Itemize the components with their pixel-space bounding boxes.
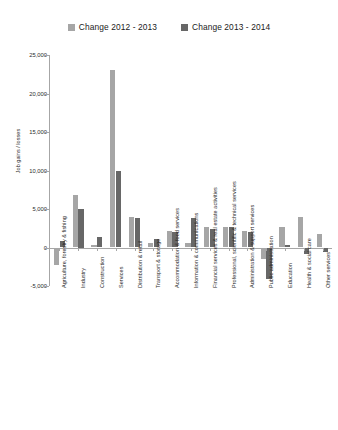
x-axis-category-label: Other services bbox=[325, 252, 331, 288]
bars-container bbox=[50, 55, 332, 286]
x-axis-tick-mark bbox=[116, 248, 117, 251]
bar[interactable] bbox=[97, 237, 102, 248]
bar-group bbox=[276, 55, 295, 286]
x-axis-category-label: Information & communications bbox=[193, 213, 199, 288]
bar[interactable] bbox=[185, 243, 190, 248]
y-axis-tick-mark bbox=[45, 132, 49, 133]
x-axis-tick-mark bbox=[78, 248, 79, 251]
bar-chart: Change 2012 - 2013 Change 2013 - 2014 Jo… bbox=[0, 0, 338, 430]
bar[interactable] bbox=[54, 248, 59, 266]
x-axis-category-label: Accommodation & food services bbox=[174, 208, 180, 288]
bar-group bbox=[69, 55, 88, 286]
bar[interactable] bbox=[73, 195, 78, 247]
bar[interactable] bbox=[116, 171, 121, 247]
bar[interactable] bbox=[298, 217, 303, 248]
x-axis-category-label: Professional, scientific & technical ser… bbox=[231, 181, 237, 288]
bar[interactable] bbox=[148, 243, 153, 248]
y-axis-tick-mark bbox=[45, 171, 49, 172]
bar[interactable] bbox=[204, 227, 209, 248]
bar[interactable] bbox=[91, 245, 96, 247]
bar-group bbox=[106, 55, 125, 286]
bar[interactable] bbox=[167, 231, 172, 248]
bar[interactable] bbox=[242, 231, 247, 248]
bar[interactable] bbox=[110, 70, 115, 247]
x-axis-category-labels: Agriculture, forestry & fishingIndustryC… bbox=[50, 286, 332, 426]
y-axis-tick-mark bbox=[45, 209, 49, 210]
x-axis-category-label: Agriculture, forestry & fishing bbox=[61, 216, 67, 288]
x-axis-category-label: Health & social care bbox=[306, 238, 312, 288]
x-axis-category-label: Financial services & real estate activit… bbox=[212, 187, 218, 288]
x-axis-category-label: Construction bbox=[99, 257, 105, 288]
x-axis-tick-mark bbox=[210, 248, 211, 251]
x-axis-category-label: Public administration bbox=[268, 236, 274, 288]
y-axis-tick-mark bbox=[45, 286, 49, 287]
bar[interactable] bbox=[223, 227, 228, 247]
x-axis-category-label: Services bbox=[118, 267, 124, 289]
x-axis-category-label: Education bbox=[287, 263, 293, 288]
x-axis-category-label: Administration & support services bbox=[249, 205, 255, 288]
x-axis-tick-mark bbox=[229, 248, 230, 251]
bar[interactable] bbox=[285, 245, 290, 247]
y-axis-tick-labels: 25,00020,00015,00010,0005,0000-5,000 bbox=[18, 50, 47, 290]
x-axis-tick-mark bbox=[191, 248, 192, 251]
x-axis-category-label: Industry bbox=[80, 268, 86, 288]
bar[interactable] bbox=[78, 209, 83, 248]
x-axis-category-label: Transport & storage bbox=[155, 239, 161, 288]
bar[interactable] bbox=[279, 227, 284, 247]
bar[interactable] bbox=[261, 248, 266, 260]
x-axis-tick-mark bbox=[97, 248, 98, 251]
x-axis-tick-mark bbox=[135, 248, 136, 251]
x-axis-tick-mark bbox=[285, 248, 286, 251]
bar[interactable] bbox=[129, 217, 134, 247]
y-axis-tick-mark bbox=[45, 55, 49, 56]
x-axis-tick-mark bbox=[304, 248, 305, 251]
plot-area: Job gains / losses 25,00020,00015,00010,… bbox=[0, 0, 338, 430]
x-axis-category-label: Distribution & retail bbox=[137, 241, 143, 288]
bar-group bbox=[88, 55, 107, 286]
x-axis-tick-mark bbox=[323, 248, 324, 251]
y-axis-tick-mark bbox=[45, 94, 49, 95]
bar[interactable] bbox=[317, 234, 322, 247]
